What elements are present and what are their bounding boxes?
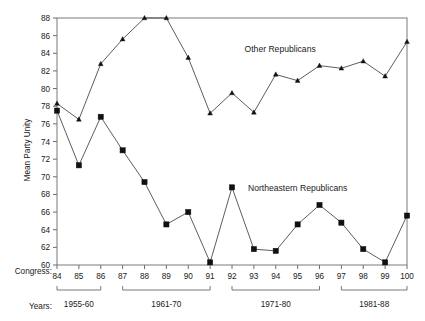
data-point-marker [339, 220, 344, 225]
x-tick-label: 99 [381, 272, 391, 281]
y-tick-label: 80 [41, 85, 51, 94]
y-tick-label: 72 [41, 155, 51, 164]
x-tick-label: 93 [249, 272, 259, 281]
chart-figure: 606264666870727476788082848688 848586878… [0, 0, 425, 321]
x-tick-label: 88 [140, 272, 150, 281]
data-point-marker [164, 222, 169, 227]
y-tick-label: 82 [41, 67, 51, 76]
y-tick-label: 76 [41, 120, 51, 129]
x-tick-label: 94 [271, 272, 281, 281]
x-tick-label: 97 [337, 272, 347, 281]
x-tick-label: 98 [359, 272, 369, 281]
data-point-marker [404, 213, 409, 218]
x-tick-label: 95 [293, 272, 303, 281]
y-tick-label: 70 [41, 173, 51, 182]
x-tick-label: 89 [162, 272, 172, 281]
data-point-marker [317, 202, 322, 207]
data-point-marker [361, 247, 366, 252]
series-label-other-republicans: Other Republicans [245, 44, 316, 54]
x-tick-label: 86 [96, 272, 106, 281]
y-tick-label: 66 [41, 208, 51, 217]
party-unity-line-chart: 606264666870727476788082848688 848586878… [0, 0, 425, 321]
data-point-marker [251, 247, 256, 252]
x-tick-label: 92 [227, 272, 237, 281]
series-label-northeastern-republicans: Northeastern Republicans [248, 183, 347, 193]
x-tick-label: 100 [400, 272, 414, 281]
data-point-marker [273, 248, 278, 253]
data-point-marker [142, 179, 147, 184]
data-point-marker [295, 222, 300, 227]
group-label: 1971-80 [261, 300, 291, 309]
congress-row-label: Congress: [15, 267, 52, 276]
y-tick-label: 86 [41, 32, 51, 41]
x-tick-label: 84 [52, 272, 62, 281]
data-point-marker [76, 163, 81, 168]
y-tick-label: 68 [41, 190, 51, 199]
data-point-marker [208, 260, 213, 265]
x-tick-label: 96 [315, 272, 325, 281]
y-tick-label: 62 [41, 243, 51, 252]
group-label: 1961-70 [151, 300, 181, 309]
y-tick-label: 78 [41, 102, 51, 111]
data-point-marker [229, 185, 234, 190]
x-tick-label: 87 [118, 272, 128, 281]
data-point-marker [186, 209, 191, 214]
years-row-label: Years: [29, 302, 52, 311]
y-tick-label: 74 [41, 138, 51, 147]
x-tick-label: 91 [206, 272, 216, 281]
group-label: 1981-88 [359, 300, 389, 309]
group-label: 1955-60 [64, 300, 94, 309]
data-point-marker [383, 260, 388, 265]
x-tick-label: 85 [74, 272, 84, 281]
y-axis-title: Mean Party Unity [23, 118, 32, 182]
y-tick-label: 84 [41, 49, 51, 58]
data-point-marker [98, 114, 103, 119]
data-point-marker [54, 108, 59, 113]
y-tick-label: 64 [41, 226, 51, 235]
data-point-marker [120, 148, 125, 153]
x-tick-label: 90 [184, 272, 194, 281]
y-tick-label: 88 [41, 14, 51, 23]
